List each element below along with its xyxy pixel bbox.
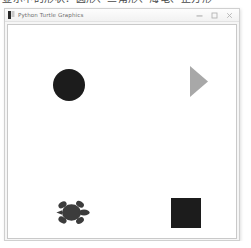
minimize-button[interactable] (192, 10, 207, 21)
python-turtle-icon (8, 11, 15, 19)
canvas-shape-square (171, 198, 201, 228)
close-button[interactable] (222, 10, 237, 21)
window-title: Python Turtle Graphics (18, 12, 84, 19)
background-window-strip: 显示中的形状：圆形、三角形、海龟、正方形 (0, 0, 251, 8)
title-bar[interactable]: Python Turtle Graphics (5, 9, 239, 22)
minimize-icon (195, 11, 204, 20)
background-window-clipped-text: 显示中的形状：圆形、三角形、海龟、正方形 (2, 0, 212, 4)
canvas-shape-triangle (190, 66, 208, 97)
close-icon (225, 11, 234, 20)
turtle-graphics-window: Python Turtle Graphics (4, 8, 240, 241)
maximize-icon (210, 11, 219, 20)
turtle-canvas[interactable] (7, 24, 237, 239)
page-background (0, 241, 251, 248)
window-controls (192, 9, 237, 22)
canvas-shape-circle (53, 69, 85, 101)
canvas-shape-turtle (56, 199, 90, 226)
maximize-button[interactable] (207, 10, 222, 21)
